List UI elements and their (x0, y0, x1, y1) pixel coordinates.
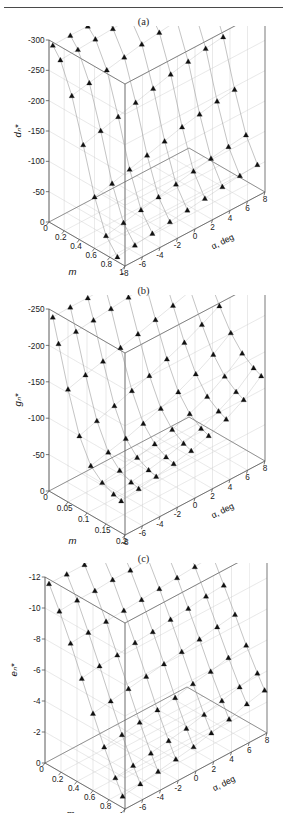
svg-text:0.05: 0.05 (57, 504, 73, 513)
svg-text:-2: -2 (33, 728, 41, 737)
panel-b: (b) 0-50-100-150-200-25000.050.10.150.2-… (0, 283, 287, 545)
svg-text:8: 8 (263, 464, 268, 473)
svg-text:-2: -2 (174, 510, 182, 519)
svg-text:0.1: 0.1 (78, 515, 90, 524)
svg-text:α, deg: α, deg (209, 232, 235, 252)
svg-text:-8: -8 (121, 269, 129, 276)
svg-text:2: 2 (211, 765, 216, 774)
svg-text:0: 0 (193, 232, 198, 241)
svg-text:α, deg: α, deg (209, 501, 235, 521)
svg-text:0.4: 0.4 (70, 242, 82, 251)
svg-text:8: 8 (263, 195, 268, 204)
svg-text:0.2: 0.2 (55, 233, 67, 242)
svg-text:dₙ*: dₙ* (12, 124, 23, 137)
svg-text:-6: -6 (139, 260, 147, 269)
svg-text:0.8: 0.8 (100, 802, 112, 811)
svg-text:eₙ*: eₙ* (8, 663, 19, 676)
panel-c: (c) 0-2-4-6-8-10-1200.20.40.60.81-8-6-4-… (0, 551, 287, 822)
svg-text:-2: -2 (174, 241, 182, 250)
svg-text:-4: -4 (156, 251, 164, 260)
panel-a: (a) 0-50-100-150-200-250-30000.20.40.60.… (0, 14, 287, 276)
svg-text:-50: -50 (33, 451, 45, 460)
panel-a-plot: 0-50-100-150-200-250-30000.20.40.60.81-8… (0, 26, 287, 276)
header-ghost-text (6, 0, 281, 6)
svg-text:0.2: 0.2 (52, 775, 64, 784)
svg-text:-8: -8 (121, 538, 129, 545)
svg-text:-200: -200 (28, 97, 45, 106)
svg-text:0: 0 (194, 774, 199, 783)
svg-text:-8: -8 (33, 635, 41, 644)
svg-text:α, deg: α, deg (211, 773, 237, 793)
svg-text:2: 2 (210, 223, 215, 232)
svg-text:0: 0 (43, 224, 48, 233)
svg-text:4: 4 (229, 755, 234, 764)
svg-text:-10: -10 (29, 604, 41, 613)
svg-text:-8: -8 (121, 812, 129, 813)
svg-text:6: 6 (245, 473, 250, 482)
svg-text:4: 4 (228, 483, 233, 492)
figure-page: (a) 0-50-100-150-200-250-30000.20.40.60.… (0, 0, 287, 822)
svg-text:2: 2 (210, 492, 215, 501)
svg-text:-12: -12 (29, 573, 41, 582)
svg-text:0.4: 0.4 (68, 784, 80, 793)
svg-text:-150: -150 (28, 127, 45, 136)
svg-text:0.6: 0.6 (84, 793, 96, 802)
svg-text:0.6: 0.6 (86, 251, 98, 260)
svg-text:6: 6 (245, 204, 250, 213)
panel-c-plot: 0-2-4-6-8-10-1200.20.40.60.81-8-6-4-2024… (0, 563, 287, 813)
svg-text:-2: -2 (175, 784, 183, 793)
svg-text:4: 4 (228, 214, 233, 223)
svg-text:0: 0 (39, 765, 44, 774)
svg-text:-6: -6 (139, 529, 147, 538)
svg-text:-250: -250 (28, 305, 45, 314)
svg-text:-6: -6 (33, 666, 41, 675)
svg-text:m: m (69, 535, 77, 545)
svg-text:-6: -6 (139, 803, 147, 812)
svg-text:-50: -50 (33, 188, 45, 197)
svg-text:-100: -100 (28, 414, 45, 423)
svg-text:8: 8 (265, 736, 270, 745)
svg-text:m: m (69, 266, 77, 276)
header-rule (4, 7, 283, 8)
svg-text:-100: -100 (28, 157, 45, 166)
svg-text:-200: -200 (28, 342, 45, 351)
svg-text:0: 0 (193, 501, 198, 510)
svg-text:-150: -150 (28, 378, 45, 387)
svg-text:0.8: 0.8 (101, 260, 113, 269)
svg-text:-4: -4 (156, 520, 164, 529)
svg-text:m: m (67, 808, 75, 813)
svg-text:6: 6 (247, 746, 252, 755)
svg-text:0.15: 0.15 (95, 526, 111, 535)
svg-text:gₙ*: gₙ* (12, 393, 23, 406)
svg-text:-300: -300 (28, 36, 45, 45)
svg-text:-250: -250 (28, 66, 45, 75)
svg-text:-4: -4 (157, 793, 165, 802)
svg-text:0: 0 (43, 493, 48, 502)
svg-text:-4: -4 (33, 697, 41, 706)
panel-b-plot: 0-50-100-150-200-25000.050.10.150.2-8-6-… (0, 295, 287, 545)
